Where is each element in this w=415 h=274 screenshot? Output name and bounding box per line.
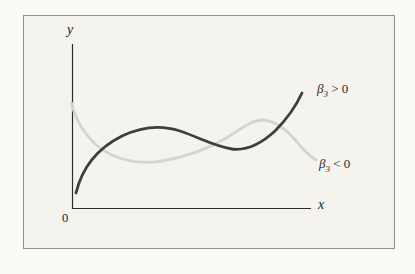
y-axis-label: y	[67, 23, 73, 37]
beta-positive-curve-label: β3 > 0	[317, 82, 348, 95]
beta-negative-condition: < 0	[330, 156, 350, 171]
origin-label: 0	[62, 212, 68, 225]
figure-frame	[23, 15, 395, 249]
x-axis-label: x	[318, 198, 324, 212]
beta-negative-curve-label: β3 < 0	[319, 157, 350, 170]
beta-positive-condition: > 0	[328, 81, 348, 96]
